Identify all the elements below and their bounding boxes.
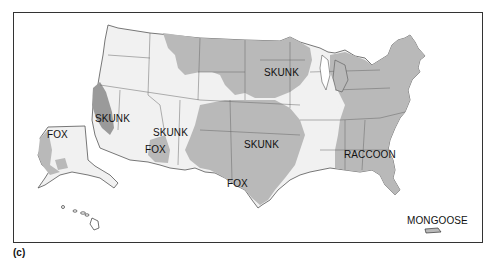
- panel-label: (c): [13, 247, 25, 258]
- puerto-rico-shape: [425, 228, 441, 233]
- fox-label-alaska: FOX: [47, 130, 68, 140]
- skunk-south-central-zone: [185, 100, 305, 205]
- skunk-label-california: SKUNK: [95, 114, 130, 124]
- mongoose-label: MONGOOSE: [407, 216, 468, 226]
- fox-label-texas: FOX: [227, 179, 248, 189]
- hawaii-islands: [62, 206, 100, 231]
- raccoon-east-zone: [330, 35, 425, 195]
- skunk-label-southwest: SKUNK: [153, 128, 188, 138]
- fox-label-arizona: FOX: [145, 145, 166, 155]
- raccoon-label: RACCOON: [344, 150, 396, 160]
- skunk-label-south-central: SKUNK: [244, 140, 279, 150]
- skunk-label-north-central: SKUNK: [264, 68, 299, 78]
